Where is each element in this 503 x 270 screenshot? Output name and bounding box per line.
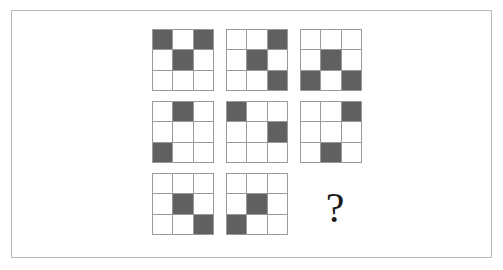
mini-cell-9-empty bbox=[194, 143, 214, 163]
mini-cell-6-empty bbox=[268, 194, 288, 214]
mini-cell-4-empty bbox=[227, 194, 247, 214]
mini-cell-8-empty bbox=[173, 215, 193, 235]
mini-cell-6-filled bbox=[268, 122, 288, 142]
mini-cell-5-filled bbox=[321, 50, 341, 70]
mini-cell-8-empty bbox=[247, 215, 267, 235]
mini-cell-9-empty bbox=[194, 71, 214, 91]
question-mark-glyph: ? bbox=[326, 187, 349, 231]
matrix-grid: ? bbox=[152, 29, 374, 243]
mini-cell-6-empty bbox=[342, 50, 362, 70]
mini-cell-1-empty bbox=[153, 174, 173, 194]
mini-grid-pattern-2 bbox=[226, 29, 288, 91]
mini-grid-pattern-5 bbox=[226, 101, 288, 163]
mini-cell-7-filled bbox=[227, 215, 247, 235]
mini-cell-1-filled bbox=[227, 102, 247, 122]
mini-cell-2-filled bbox=[173, 102, 193, 122]
mini-cell-2-empty bbox=[247, 30, 267, 50]
matrix-cell-row2-col1 bbox=[152, 101, 226, 173]
mini-cell-2-empty bbox=[173, 174, 193, 194]
mini-cell-9-empty bbox=[342, 143, 362, 163]
mini-cell-4-empty bbox=[153, 50, 173, 70]
mini-cell-1-empty bbox=[227, 174, 247, 194]
mini-cell-4-empty bbox=[153, 122, 173, 142]
mini-grid-pattern-7 bbox=[152, 173, 214, 235]
mini-cell-6-empty bbox=[268, 50, 288, 70]
mini-cell-8-empty bbox=[173, 143, 193, 163]
mini-grid-pattern-4 bbox=[152, 101, 214, 163]
mini-cell-5-empty bbox=[247, 122, 267, 142]
mini-cell-3-empty bbox=[268, 174, 288, 194]
mini-cell-7-empty bbox=[301, 143, 321, 163]
matrix-cell-row1-col2 bbox=[226, 29, 300, 101]
mini-cell-9-filled bbox=[268, 71, 288, 91]
matrix-cell-row1-col3 bbox=[300, 29, 374, 101]
mini-cell-1-empty bbox=[153, 102, 173, 122]
matrix-cell-row2-col3 bbox=[300, 101, 374, 173]
mini-cell-8-empty bbox=[173, 71, 193, 91]
mini-cell-4-empty bbox=[227, 122, 247, 142]
matrix-cell-row3-col1 bbox=[152, 173, 226, 245]
mini-cell-2-empty bbox=[321, 30, 341, 50]
mini-cell-4-empty bbox=[301, 50, 321, 70]
mini-cell-8-empty bbox=[247, 143, 267, 163]
mini-cell-1-empty bbox=[301, 102, 321, 122]
mini-cell-9-empty bbox=[268, 215, 288, 235]
mini-grid-pattern-8 bbox=[226, 173, 288, 235]
mini-cell-5-filled bbox=[247, 194, 267, 214]
mini-cell-1-filled bbox=[153, 30, 173, 50]
mini-cell-5-filled bbox=[173, 50, 193, 70]
mini-cell-3-empty bbox=[268, 102, 288, 122]
mini-cell-8-empty bbox=[321, 71, 341, 91]
mini-cell-1-empty bbox=[227, 30, 247, 50]
mini-cell-3-filled bbox=[268, 30, 288, 50]
mini-cell-5-filled bbox=[247, 50, 267, 70]
mini-cell-7-empty bbox=[227, 143, 247, 163]
mini-cell-5-filled bbox=[173, 194, 193, 214]
mini-cell-3-empty bbox=[194, 102, 214, 122]
mini-cell-1-empty bbox=[301, 30, 321, 50]
mini-cell-5-empty bbox=[321, 122, 341, 142]
mini-cell-9-filled bbox=[342, 71, 362, 91]
mini-cell-3-empty bbox=[194, 174, 214, 194]
mini-grid-pattern-6 bbox=[300, 101, 362, 163]
mini-cell-7-empty bbox=[227, 71, 247, 91]
mini-cell-2-empty bbox=[173, 30, 193, 50]
matrix-cell-row2-col2 bbox=[226, 101, 300, 173]
mini-cell-2-empty bbox=[321, 102, 341, 122]
mini-cell-4-empty bbox=[301, 122, 321, 142]
puzzle-frame: ? bbox=[11, 10, 492, 258]
mini-cell-7-empty bbox=[153, 71, 173, 91]
mini-cell-4-empty bbox=[227, 50, 247, 70]
mini-cell-8-filled bbox=[321, 143, 341, 163]
mini-grid-pattern-3 bbox=[300, 29, 362, 91]
mini-cell-3-empty bbox=[342, 30, 362, 50]
mini-cell-3-filled bbox=[342, 102, 362, 122]
mini-cell-7-filled bbox=[301, 71, 321, 91]
answer-slot[interactable]: ? bbox=[300, 173, 374, 245]
mini-cell-2-empty bbox=[247, 174, 267, 194]
mini-cell-6-empty bbox=[194, 194, 214, 214]
mini-cell-4-empty bbox=[153, 194, 173, 214]
mini-cell-3-filled bbox=[194, 30, 214, 50]
mini-cell-6-empty bbox=[194, 50, 214, 70]
mini-cell-6-empty bbox=[194, 122, 214, 142]
mini-grid-pattern-1 bbox=[152, 29, 214, 91]
mini-cell-6-empty bbox=[342, 122, 362, 142]
matrix-cell-row3-col2 bbox=[226, 173, 300, 245]
mini-cell-9-filled bbox=[194, 215, 214, 235]
mini-cell-2-empty bbox=[247, 102, 267, 122]
mini-cell-5-empty bbox=[173, 122, 193, 142]
mini-cell-7-empty bbox=[153, 215, 173, 235]
mini-cell-8-empty bbox=[247, 71, 267, 91]
matrix-cell-row1-col1 bbox=[152, 29, 226, 101]
mini-cell-9-empty bbox=[268, 143, 288, 163]
mini-cell-7-filled bbox=[153, 143, 173, 163]
